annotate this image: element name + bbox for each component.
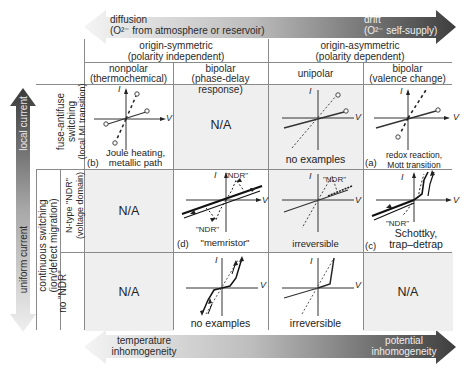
caption-r3c3: irreversible [268, 318, 363, 328]
caption-r2c2: "memristor" [190, 238, 260, 248]
row-ntype-line2: (voltage domain) [75, 166, 86, 246]
local-current-label: local current [18, 79, 29, 169]
axis-v-r2c4: V [453, 195, 459, 206]
potential-label: potential [364, 335, 444, 346]
col-nonpolar-sub: (thermochemical) [84, 73, 173, 84]
iv-plot-r2c2 [176, 170, 268, 232]
iv-plot-r3c2 [176, 254, 266, 316]
axis-v-r2c2: V [262, 195, 268, 206]
caption-r1c4-1: redox reaction, [376, 150, 452, 160]
iv-plot-r1c1 [88, 86, 172, 152]
axis-i-r3c2: I [215, 255, 218, 266]
na-r1c2: N/A [174, 118, 268, 132]
temperature-label: temperature [104, 335, 184, 346]
axis-v-r1c3: V [355, 112, 361, 123]
na-r3c4: N/A [363, 285, 453, 299]
iv-plot-r2c4 [366, 170, 456, 222]
temperature-inhomogeneity-label: inhomogeneity [104, 346, 184, 357]
axis-i-r1c4: I [400, 86, 403, 97]
iv-plot-r1c4 [366, 86, 456, 152]
origin-asymmetric-label: origin-asymmetric [268, 40, 452, 51]
axis-v-r3c2: V [260, 280, 266, 291]
grid-h-r2 [60, 252, 452, 253]
row-fuse-line1: fuse-antifuse [55, 80, 66, 164]
uniform-current-label: uniform current [18, 215, 29, 305]
axis-i-r1c3: I [309, 86, 312, 97]
diffusion-sublabel: (O²⁻ from atmosphere or reservoir) [110, 25, 264, 36]
iv-plot-r2c3 [272, 170, 360, 234]
caption-r3c2: no examples [173, 318, 268, 328]
diffusion-label: diffusion [110, 14, 147, 25]
grid-v-c1 [173, 62, 174, 330]
drift-sublabel: (O²⁻ self-supply) [364, 25, 437, 36]
row-fuse-line2: switching [66, 80, 77, 164]
iv-plot-r3c3 [272, 254, 360, 316]
caption-r1c1-2: metallic path [98, 158, 173, 168]
label-c: (c) [365, 240, 376, 251]
axis-v-r1c4: V [453, 112, 459, 123]
row-continuous-line1: continuous switching [37, 186, 48, 306]
axis-v-r1c1: V [166, 113, 172, 124]
label-d: (d) [177, 238, 189, 249]
label-a: (a) [365, 157, 377, 168]
polarity-independent-label: (polarity independent) [84, 51, 268, 62]
axis-i-r3c3: I [310, 256, 313, 267]
caption-r2c4-2: trap–detrap [380, 239, 452, 249]
axis-i-r1c1: I [118, 84, 121, 95]
origin-symmetric-label: origin-symmetric [84, 40, 268, 51]
drift-label: drift [364, 14, 381, 25]
iv-plot-r1c3 [272, 86, 360, 152]
axis-i-r2c3: I [309, 171, 312, 182]
row-fuse-line3: (local MI transition) [77, 80, 88, 164]
na-r2c1: N/A [85, 204, 173, 218]
axis-i-r2c2: I [214, 170, 217, 181]
col-bipolar-phase-sub: (phase-delay response) [173, 73, 268, 95]
label-b: (b) [87, 157, 99, 168]
row-nondr: no "NDR" [57, 262, 68, 322]
col-bipolar-valence-sub: (valence change) [363, 73, 452, 84]
axis-i-r2c4: I [401, 172, 404, 183]
axis-v-r3c3: V [355, 280, 361, 291]
caption-r2c4-1: Schottky, [380, 228, 452, 238]
polarity-dependent-label: (polarity dependent) [268, 51, 452, 62]
col-unipolar: unipolar [268, 68, 363, 79]
potential-inhomogeneity-label: inhomogeneity [364, 346, 444, 357]
caption-r1c3: no examples [268, 154, 363, 164]
caption-r1c4-2: Mott transition [376, 160, 452, 170]
ndr-top-r2c3: "NDR" [323, 174, 346, 185]
row-ntype-line1: N-type "NDR" [64, 166, 75, 246]
axis-v-r2c3: V [355, 195, 361, 206]
ndr-bottom-r2c2: "NDR" [196, 224, 219, 235]
na-r3c1: N/A [85, 285, 173, 299]
caption-r2c3: irreversible [268, 239, 363, 249]
ndr-top-r2c2: "NDR" [225, 170, 248, 181]
grid-v-c2 [268, 39, 269, 330]
